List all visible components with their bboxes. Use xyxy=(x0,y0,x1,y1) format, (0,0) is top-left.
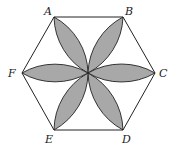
vertex-label-b: B xyxy=(124,5,133,18)
hexagon-petal-diagram: ABCDEF xyxy=(0,0,179,150)
vertex-label-f: F xyxy=(7,67,16,80)
vertex-label-e: E xyxy=(44,133,53,146)
vertex-label-d: D xyxy=(121,133,131,146)
petals xyxy=(22,17,155,130)
vertex-label-a: A xyxy=(43,5,52,18)
vertex-label-c: C xyxy=(159,67,168,80)
